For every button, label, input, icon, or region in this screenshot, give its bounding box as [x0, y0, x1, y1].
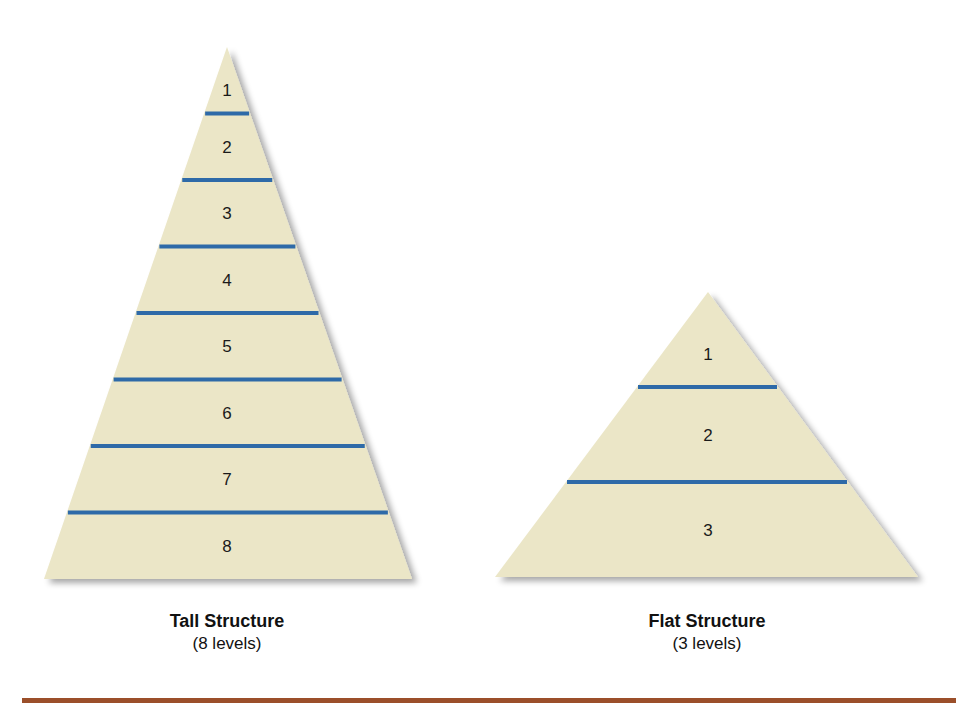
flat-level-label: 2	[703, 426, 712, 445]
tall-subtitle: (8 levels)	[77, 633, 377, 655]
flat-subtitle: (3 levels)	[557, 633, 857, 655]
bottom-rule	[22, 698, 956, 703]
tall-level-label: 1	[222, 81, 231, 100]
tall-pyramid: 12345678	[44, 47, 412, 579]
flat-level-label: 1	[703, 345, 712, 364]
flat-level-label: 3	[703, 521, 712, 540]
tall-level-label: 6	[222, 404, 231, 423]
tall-level-label: 5	[222, 337, 231, 356]
tall-level-label: 3	[222, 204, 231, 223]
pyramid-diagram: 12345678 123	[0, 0, 970, 703]
tall-level-label: 8	[222, 537, 231, 556]
flat-title: Flat Structure	[557, 609, 857, 633]
tall-level-label: 7	[222, 470, 231, 489]
tall-caption: Tall Structure (8 levels)	[77, 609, 377, 655]
flat-pyramid: 123	[495, 292, 918, 577]
tall-level-label: 4	[222, 271, 231, 290]
flat-caption: Flat Structure (3 levels)	[557, 609, 857, 655]
tall-level-label: 2	[222, 138, 231, 157]
tall-title: Tall Structure	[77, 609, 377, 633]
